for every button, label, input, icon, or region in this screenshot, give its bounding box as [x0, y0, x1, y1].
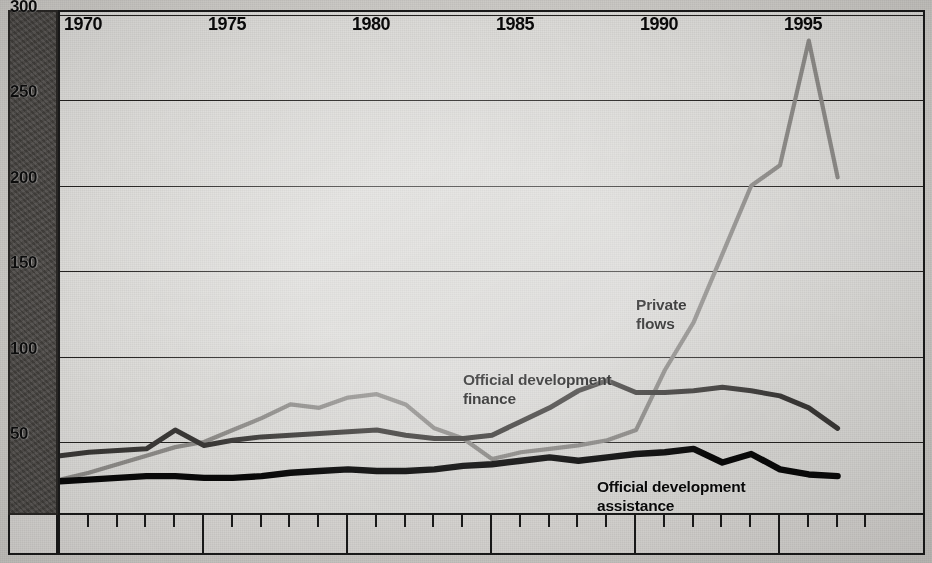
- series-label-private-flows: Private flows: [636, 296, 686, 334]
- x-tick-1976: [231, 515, 233, 527]
- x-tick-label-1980: 1980: [352, 14, 390, 35]
- x-tick-1981: [375, 515, 377, 527]
- x-tick-1972: [116, 515, 118, 527]
- x-tick-1975: [202, 515, 204, 555]
- x-tick-1990: [634, 515, 636, 555]
- plot-inner: [60, 12, 923, 513]
- x-tick-1989: [605, 515, 607, 527]
- plot-area: [58, 10, 925, 515]
- line-private-flows: [60, 41, 838, 480]
- x-tick-label-1985: 1985: [496, 14, 534, 35]
- chart-figure: 50100150200250300 1970197519801985199019…: [0, 0, 932, 563]
- x-tick-1979: [317, 515, 319, 527]
- x-tick-1987: [548, 515, 550, 527]
- x-tick-1993: [720, 515, 722, 527]
- x-tick-label-1990: 1990: [640, 14, 678, 35]
- x-tick-1983: [432, 515, 434, 527]
- x-tick-1992: [692, 515, 694, 527]
- x-tick-1974: [173, 515, 175, 527]
- y-tick-label-300: 300: [10, 0, 37, 17]
- x-tick-1997: [836, 515, 838, 527]
- x-tick-1978: [288, 515, 290, 527]
- series-label-official-development-assistance: Official development assistance: [597, 478, 745, 516]
- x-tick-1996: [807, 515, 809, 527]
- x-tick-label-1975: 1975: [208, 14, 246, 35]
- x-tick-label-1995: 1995: [784, 14, 822, 35]
- x-tick-1971: [87, 515, 89, 527]
- x-tick-1982: [404, 515, 406, 527]
- x-tick-1986: [519, 515, 521, 527]
- x-tick-1980: [346, 515, 348, 555]
- y-tick-label-200: 200: [10, 168, 37, 188]
- x-tick-1995: [778, 515, 780, 555]
- x-tick-label-1970: 1970: [64, 14, 102, 35]
- line-official-development-finance: [60, 381, 838, 456]
- series-label-official-development-finance: Official development finance: [463, 371, 611, 409]
- x-tick-1988: [576, 515, 578, 527]
- x-tick-1977: [260, 515, 262, 527]
- y-tick-label-250: 250: [10, 82, 37, 102]
- line-official-development-assistance: [60, 449, 838, 481]
- x-tick-1985: [490, 515, 492, 555]
- y-tick-label-100: 100: [10, 339, 37, 359]
- x-axis-corner: [8, 515, 58, 555]
- series-lines: [60, 12, 923, 513]
- x-tick-1991: [663, 515, 665, 527]
- x-tick-1973: [144, 515, 146, 527]
- x-tick-1998: [864, 515, 866, 527]
- x-tick-1970: [58, 515, 60, 555]
- y-tick-label-150: 150: [10, 253, 37, 273]
- y-tick-label-50: 50: [10, 424, 28, 444]
- x-tick-1984: [461, 515, 463, 527]
- x-tick-1994: [749, 515, 751, 527]
